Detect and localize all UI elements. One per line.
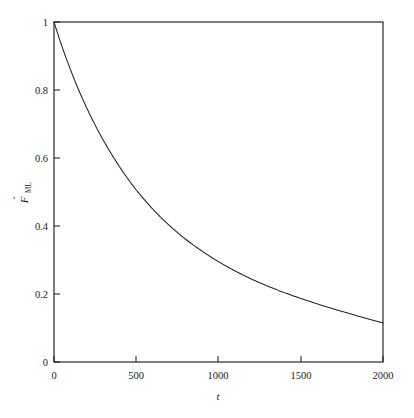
y-tick-label: 0.6 [35, 153, 48, 164]
y-axis-title-subscript: ML [25, 182, 33, 193]
y-tick-label: 1 [43, 17, 48, 28]
chart-canvas: 0 0.2 0.4 0.6 0.8 1 0 500 1000 1500 2000… [0, 0, 414, 418]
x-tick-label: 500 [128, 370, 144, 381]
figure-container: 0 0.2 0.4 0.6 0.8 1 0 500 1000 1500 2000… [0, 0, 414, 418]
chart-background [0, 0, 414, 418]
y-tick-label: 0.8 [35, 85, 48, 96]
y-tick-label: 0 [43, 357, 48, 368]
svg-text:F: F [18, 196, 30, 204]
x-tick-label: 1500 [291, 370, 312, 381]
y-tick-label: 0.2 [35, 289, 48, 300]
y-axis-title-main: F [18, 196, 30, 204]
x-tick-label: 0 [51, 370, 56, 381]
x-tick-label: 2000 [373, 370, 394, 381]
y-tick-label: 0.4 [35, 221, 49, 232]
x-tick-label: 1000 [208, 370, 229, 381]
